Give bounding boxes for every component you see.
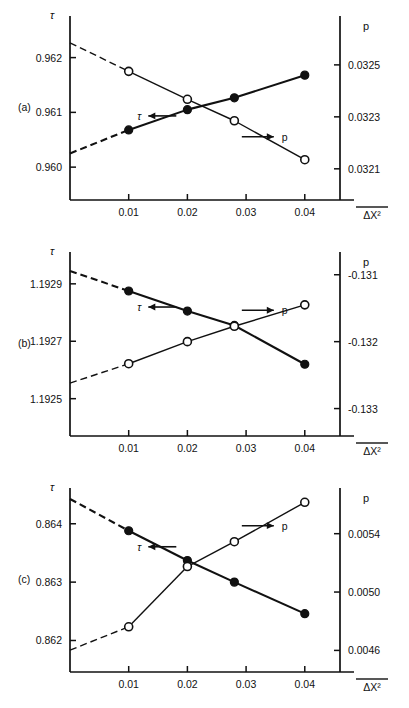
- data-point-open: [183, 563, 191, 571]
- left-tick-label: 0.962: [36, 52, 62, 64]
- tau-annotation-arrow-head: [148, 543, 155, 550]
- data-point-open: [230, 322, 238, 330]
- x-axis-label: ΔX²: [363, 209, 381, 221]
- data-point-open: [230, 538, 238, 546]
- right-tick-label: 0.0050: [348, 586, 380, 598]
- x-tick-label: 0.02: [177, 678, 198, 690]
- x-tick-label: 0.01: [118, 442, 139, 454]
- series-line: [234, 582, 304, 614]
- data-point-open: [183, 338, 191, 346]
- data-point-filled: [230, 578, 238, 586]
- right-tick-label: 0.0054: [348, 528, 380, 540]
- x-tick-label: 0.04: [295, 442, 316, 454]
- left-axis-title: τ: [50, 245, 55, 257]
- panel-label: (b): [18, 337, 31, 349]
- data-point-filled: [183, 307, 191, 315]
- left-tick-label: 1.1925: [30, 393, 62, 405]
- series-line: [234, 75, 304, 98]
- left-axis-title: τ: [50, 9, 55, 21]
- right-tick-label: -0.133: [348, 403, 378, 415]
- left-tick-label: 0.863: [36, 576, 62, 588]
- panel-label: (c): [18, 573, 30, 585]
- series-line: [234, 121, 304, 160]
- tau-annotation-arrow-head: [148, 304, 155, 311]
- series-line: [187, 311, 234, 325]
- left-tick-label: 0.864: [36, 518, 62, 530]
- panel-c-plot: 0.8620.8630.8640.00460.00500.00540.010.0…: [0, 472, 409, 708]
- left-axis-title: τ: [50, 481, 55, 493]
- right-tick-label: 0.0321: [348, 163, 380, 175]
- series-line: [187, 99, 234, 120]
- series-line: [187, 542, 234, 567]
- right-tick-label: -0.131: [348, 269, 378, 281]
- x-tick-label: 0.03: [236, 206, 257, 218]
- x-tick-label: 0.02: [177, 442, 198, 454]
- p-annotation-arrow-head: [267, 307, 274, 314]
- right-axis-title: p: [363, 256, 369, 268]
- p-annotation-arrow-head: [267, 133, 274, 140]
- series-line: [187, 98, 234, 110]
- left-tick-label: 0.961: [36, 106, 62, 118]
- series-extrapolation: [70, 627, 129, 650]
- p-annotation-label: p: [282, 304, 288, 316]
- data-point-filled: [301, 360, 309, 368]
- series-line: [234, 305, 304, 326]
- right-tick-label: 0.0046: [348, 644, 380, 656]
- x-tick-label: 0.01: [118, 206, 139, 218]
- data-point-open: [125, 623, 133, 631]
- tau-annotation-label: τ: [137, 110, 142, 122]
- left-tick-label: 1.1927: [30, 335, 62, 347]
- left-tick-label: 0.862: [36, 634, 62, 646]
- x-tick-label: 0.04: [295, 678, 316, 690]
- series-extrapolation: [70, 43, 129, 72]
- data-point-filled: [301, 71, 309, 79]
- series-line: [129, 71, 188, 99]
- right-tick-label: 0.0325: [348, 59, 380, 71]
- series-extrapolation: [70, 130, 129, 154]
- panel-c: 0.8620.8630.8640.00460.00500.00540.010.0…: [0, 472, 409, 708]
- data-point-open: [125, 67, 133, 75]
- series-line: [129, 342, 188, 364]
- p-annotation-label: p: [282, 131, 288, 143]
- left-tick-label: 1.1929: [30, 278, 62, 290]
- x-axis-label: ΔX²: [363, 681, 381, 693]
- tau-annotation-arrow-head: [148, 112, 155, 119]
- right-axis-title: p: [363, 492, 369, 504]
- x-tick-label: 0.02: [177, 206, 198, 218]
- series-line: [234, 502, 304, 541]
- data-point-open: [183, 95, 191, 103]
- series-line: [234, 325, 304, 364]
- p-annotation-arrow-head: [267, 522, 274, 529]
- panel-label: (a): [18, 101, 31, 113]
- right-axis-title: p: [363, 20, 369, 32]
- x-tick-label: 0.01: [118, 678, 139, 690]
- series-extrapolation: [70, 499, 129, 531]
- tau-annotation-label: τ: [137, 301, 142, 313]
- p-annotation-label: p: [282, 520, 288, 532]
- left-tick-label: 0.960: [36, 161, 62, 173]
- data-point-filled: [301, 610, 309, 618]
- series-extrapolation: [70, 364, 129, 383]
- tau-annotation-label: τ: [137, 541, 142, 553]
- series-line: [187, 561, 234, 583]
- series-line: [187, 326, 234, 341]
- series-line: [129, 567, 188, 627]
- data-point-filled: [125, 126, 133, 134]
- data-point-open: [230, 117, 238, 125]
- data-point-open: [301, 498, 309, 506]
- series-extrapolation: [70, 271, 129, 291]
- x-tick-label: 0.04: [295, 206, 316, 218]
- right-tick-label: -0.132: [348, 336, 378, 348]
- panel-b-plot: 1.19251.19271.1929-0.133-0.132-0.1310.01…: [0, 236, 409, 472]
- data-point-open: [125, 360, 133, 368]
- x-tick-label: 0.03: [236, 442, 257, 454]
- data-point-filled: [125, 527, 133, 535]
- panel-b: 1.19251.19271.1929-0.133-0.132-0.1310.01…: [0, 236, 409, 472]
- panel-a: 0.9600.9610.9620.03210.03230.03250.010.0…: [0, 0, 409, 236]
- data-point-open: [301, 301, 309, 309]
- data-point-open: [301, 156, 309, 164]
- data-point-filled: [230, 94, 238, 102]
- panel-a-plot: 0.9600.9610.9620.03210.03230.03250.010.0…: [0, 0, 409, 236]
- right-tick-label: 0.0323: [348, 111, 380, 123]
- x-axis-label: ΔX²: [363, 445, 381, 457]
